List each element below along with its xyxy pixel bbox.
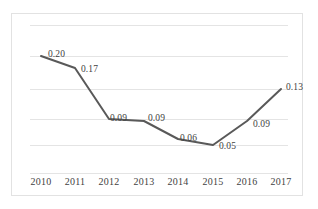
series-polyline [41,56,281,145]
x-axis-tick-2012: 2012 [89,177,129,187]
x-axis-tick-2017: 2017 [261,177,301,187]
data-label-2016: 0.09 [253,120,270,130]
data-label-2011: 0.17 [81,65,98,75]
data-label-2013: 0.09 [148,114,165,124]
data-label-2017: 0.13 [286,83,303,93]
chart-frame: 0.20 0.17 0.09 0.09 0.06 0.05 0.09 0.13 … [11,13,303,196]
data-label-2014: 0.06 [180,134,197,144]
data-label-2012: 0.09 [110,114,127,124]
x-axis-tick-2014: 2014 [158,177,198,187]
data-label-2010: 0.20 [48,50,65,60]
plot-area: 0.20 0.17 0.09 0.09 0.06 0.05 0.09 0.13 … [12,14,304,197]
data-label-2015: 0.05 [219,142,236,152]
series-line [12,14,304,197]
chart-screenshot: 0.20 0.17 0.09 0.09 0.06 0.05 0.09 0.13 … [0,0,318,209]
